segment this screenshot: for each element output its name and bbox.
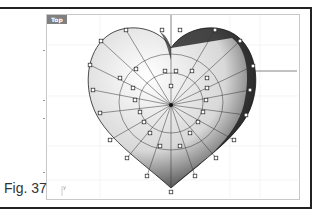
control-point[interactable]	[188, 131, 192, 135]
control-point[interactable]	[133, 98, 137, 102]
control-point[interactable]	[190, 69, 194, 73]
control-point[interactable]	[205, 86, 209, 90]
figure-label: Fig. 37	[4, 180, 47, 196]
control-point[interactable]	[134, 67, 138, 71]
control-point[interactable]	[145, 174, 149, 178]
control-point[interactable]	[108, 138, 112, 142]
control-point[interactable]	[244, 113, 248, 117]
control-point[interactable]	[88, 63, 92, 67]
control-point[interactable]	[201, 110, 205, 114]
control-point[interactable]	[196, 120, 200, 124]
control-point[interactable]	[205, 76, 209, 80]
control-point[interactable]	[98, 111, 102, 115]
control-point[interactable]	[169, 190, 173, 194]
control-point[interactable]	[158, 144, 162, 148]
control-point[interactable]	[118, 76, 122, 80]
heart-model-canvas[interactable]: y	[0, 0, 324, 216]
control-point[interactable]	[160, 28, 164, 32]
control-point[interactable]	[91, 88, 95, 92]
control-point[interactable]	[148, 131, 152, 135]
control-point[interactable]	[174, 69, 178, 73]
control-point[interactable]	[178, 28, 182, 32]
control-point[interactable]	[163, 69, 167, 73]
control-point[interactable]	[124, 28, 128, 32]
pole-point	[169, 103, 173, 107]
control-point[interactable]	[238, 39, 242, 43]
control-point[interactable]	[138, 110, 142, 114]
control-point[interactable]	[251, 64, 255, 68]
control-point[interactable]	[125, 156, 129, 160]
control-point[interactable]	[169, 84, 173, 88]
control-point[interactable]	[214, 156, 218, 160]
control-point[interactable]	[178, 144, 182, 148]
axis-icon-label: y	[63, 184, 66, 191]
control-point[interactable]	[99, 39, 103, 43]
control-point[interactable]	[131, 86, 135, 90]
control-point[interactable]	[204, 98, 208, 102]
control-point[interactable]	[213, 28, 217, 32]
control-point[interactable]	[193, 174, 197, 178]
control-point[interactable]	[142, 120, 146, 124]
control-point[interactable]	[232, 138, 236, 142]
control-point[interactable]	[248, 88, 252, 92]
